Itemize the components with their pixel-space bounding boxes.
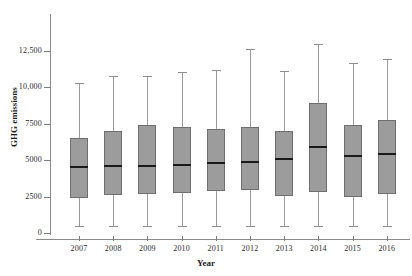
lower-whisker-cap xyxy=(178,226,187,227)
x-axis-tick-label: 2014 xyxy=(301,244,335,253)
x-axis-tick xyxy=(113,236,114,241)
lower-whisker-cap xyxy=(212,226,221,227)
boxplot-chart: 025005000750010,00012,500 20072008200920… xyxy=(0,0,412,276)
x-axis-tick xyxy=(216,236,217,241)
upper-whisker-cap xyxy=(178,72,187,73)
median-line xyxy=(138,165,156,167)
lower-whisker-cap xyxy=(314,226,323,227)
upper-whisker xyxy=(318,44,319,103)
x-axis-tick xyxy=(79,236,80,241)
lower-whisker-cap xyxy=(280,226,289,227)
upper-whisker-cap xyxy=(143,76,152,77)
x-axis-tick-label: 2011 xyxy=(199,244,233,253)
upper-whisker-cap xyxy=(109,76,118,77)
lower-whisker xyxy=(147,194,148,225)
upper-whisker xyxy=(113,76,114,131)
upper-whisker-cap xyxy=(75,83,84,84)
y-axis-tick-label: 7500 xyxy=(0,119,42,128)
x-axis-tick-label: 2016 xyxy=(370,244,404,253)
x-axis-tick-label: 2008 xyxy=(96,244,130,253)
upper-whisker xyxy=(79,83,80,138)
x-axis-tick-label: 2007 xyxy=(62,244,96,253)
median-line xyxy=(378,153,396,155)
median-line xyxy=(241,161,259,163)
upper-whisker xyxy=(353,63,354,126)
x-axis-tick xyxy=(250,236,251,241)
x-axis-tick-label: 2009 xyxy=(130,244,164,253)
lower-whisker xyxy=(250,190,251,226)
y-axis-tick-label: 10,000 xyxy=(0,82,42,91)
median-line xyxy=(275,158,293,160)
upper-whisker xyxy=(216,70,217,129)
lower-whisker xyxy=(284,196,285,226)
iqr-box xyxy=(378,120,396,194)
x-axis-tick xyxy=(387,236,388,241)
upper-whisker xyxy=(250,49,251,128)
lower-whisker xyxy=(182,193,183,226)
y-axis-tick xyxy=(44,197,51,198)
median-line xyxy=(309,146,327,148)
lower-whisker xyxy=(216,191,217,226)
lower-whisker-cap xyxy=(246,226,255,227)
x-axis-tick xyxy=(147,236,148,241)
upper-whisker-cap xyxy=(349,63,358,64)
lower-whisker xyxy=(113,195,114,226)
x-axis-title: Year xyxy=(0,258,412,268)
lower-whisker-cap xyxy=(383,226,392,227)
lower-whisker-cap xyxy=(109,226,118,227)
lower-whisker xyxy=(79,198,80,226)
upper-whisker-cap xyxy=(246,49,255,50)
y-axis-title: GHG emissions xyxy=(9,67,19,167)
median-line xyxy=(70,166,88,168)
median-line xyxy=(104,165,122,167)
x-axis-tick xyxy=(182,236,183,241)
x-axis-tick-label: 2013 xyxy=(267,244,301,253)
upper-whisker xyxy=(387,59,388,120)
y-axis-tick xyxy=(44,233,51,234)
x-axis-tick xyxy=(353,236,354,241)
upper-whisker-cap xyxy=(383,59,392,60)
y-axis-tick-label: 5000 xyxy=(0,155,42,164)
x-axis-line xyxy=(36,239,410,240)
x-axis-tick-label: 2010 xyxy=(165,244,199,253)
iqr-box xyxy=(173,127,191,193)
upper-whisker-cap xyxy=(314,44,323,45)
y-axis-tick xyxy=(44,160,51,161)
median-line xyxy=(207,162,225,164)
y-axis-tick xyxy=(44,51,51,52)
y-axis-tick xyxy=(44,124,51,125)
upper-whisker xyxy=(147,76,148,125)
iqr-box xyxy=(344,125,362,196)
upper-whisker xyxy=(182,72,183,127)
upper-whisker-cap xyxy=(212,70,221,71)
x-axis-tick xyxy=(318,236,319,241)
x-axis-tick-label: 2015 xyxy=(336,244,370,253)
lower-whisker xyxy=(318,192,319,225)
y-axis-tick xyxy=(44,87,51,88)
iqr-box xyxy=(241,127,259,190)
iqr-box xyxy=(104,131,122,195)
lower-whisker xyxy=(353,197,354,227)
iqr-box xyxy=(207,129,225,191)
median-line xyxy=(173,164,191,166)
iqr-box xyxy=(275,131,293,196)
upper-whisker xyxy=(284,71,285,131)
upper-whisker-cap xyxy=(280,71,289,72)
lower-whisker xyxy=(387,194,388,225)
median-line xyxy=(344,155,362,157)
iqr-box xyxy=(138,125,156,194)
y-axis-tick-label: 2500 xyxy=(0,192,42,201)
lower-whisker-cap xyxy=(75,226,84,227)
x-axis-tick-label: 2012 xyxy=(233,244,267,253)
y-axis-tick-label: 12,500 xyxy=(0,46,42,55)
y-axis-tick-label: 0 xyxy=(0,228,42,237)
lower-whisker-cap xyxy=(349,226,358,227)
lower-whisker-cap xyxy=(143,226,152,227)
x-axis-tick xyxy=(284,236,285,241)
